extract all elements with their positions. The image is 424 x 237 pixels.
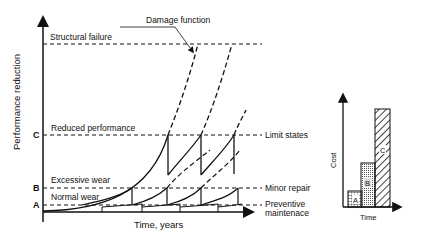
level-marker-b: B <box>33 183 40 193</box>
excessive-wear-label: Excessive wear <box>51 175 110 185</box>
cost-bar-b-label: B <box>365 179 370 188</box>
maintenance-label: maintenace <box>265 208 309 218</box>
cost-x-axis-label: Time <box>360 213 376 222</box>
reduced-performance-label: Reduced performance <box>51 123 135 133</box>
limit-states-label: Limit states <box>265 130 308 140</box>
level-marker-a: A <box>33 200 40 210</box>
cost-chart: A B C Time Cost <box>329 95 400 222</box>
cost-bar-c-label: C <box>380 146 386 155</box>
cost-bar-c <box>375 109 390 207</box>
damage-function-label: Damage function <box>146 15 211 25</box>
normal-wear-label: Normal wear <box>51 192 99 202</box>
x-axis-label: Time, years <box>134 219 184 230</box>
minor-repair-label: Minor repair <box>265 183 311 193</box>
damage-function-dashed-2 <box>201 44 232 135</box>
damage-function-arrow <box>120 27 193 52</box>
main-chart: Damage function Structural failure Reduc… <box>11 15 311 230</box>
damage-function-dashed-1 <box>168 44 198 135</box>
y-axis-label: Performance reduction <box>11 54 22 150</box>
cost-y-axis-label: Cost <box>329 152 338 168</box>
structural-failure-label: Structural failure <box>50 32 112 42</box>
level-marker-c: C <box>33 130 40 140</box>
cost-bar-a-label: A <box>353 196 358 205</box>
diagram-canvas: Damage function Structural failure Reduc… <box>0 0 424 237</box>
